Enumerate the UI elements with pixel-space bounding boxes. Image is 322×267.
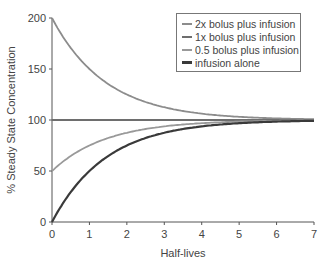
x-tick-label: 3 [161, 228, 167, 240]
legend-item-1x-bolus: 1x bolus plus infusion [182, 30, 300, 43]
x-tick-label: 4 [199, 228, 205, 240]
legend-swatch [182, 23, 192, 25]
legend-swatch [182, 49, 192, 51]
x-tick-label: 2 [124, 228, 130, 240]
x-tick-label: 0 [49, 228, 55, 240]
legend-label: infusion alone [195, 57, 260, 69]
series-infusion-alone [52, 121, 314, 222]
x-tick-label: 7 [311, 228, 317, 240]
legend-label: 2x bolus plus infusion [195, 18, 295, 30]
legend-label: 0.5 bolus plus infusion [195, 44, 299, 56]
legend-swatch [182, 61, 192, 64]
y-tick-label: 0 [40, 216, 46, 228]
legend-item-0-5-bolus: 0.5 bolus plus infusion [182, 43, 300, 56]
y-tick-label: 200 [28, 12, 46, 24]
x-tick-label: 1 [86, 228, 92, 240]
legend-label: 1x bolus plus infusion [195, 31, 295, 43]
y-tick-label: 100 [28, 114, 46, 126]
y-axis-label: % Steady State Concentration [5, 46, 17, 193]
y-tick-label: 50 [34, 165, 46, 177]
x-axis-label: Half-lives [160, 247, 206, 259]
legend-swatch [182, 36, 192, 38]
legend-item-infusion-alone: infusion alone [182, 56, 300, 69]
legend-item-2x-bolus: 2x bolus plus infusion [182, 17, 300, 30]
y-tick-label: 150 [28, 63, 46, 75]
legend: 2x bolus plus infusion 1x bolus plus inf… [176, 13, 301, 72]
x-tick-label: 5 [236, 228, 242, 240]
x-tick-label: 6 [274, 228, 280, 240]
